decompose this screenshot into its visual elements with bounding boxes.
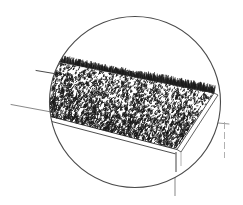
illustration-canvas bbox=[0, 0, 243, 205]
illustration-figure bbox=[0, 0, 243, 205]
